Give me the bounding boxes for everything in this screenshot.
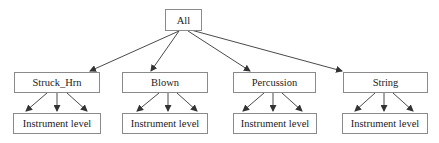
- node-percussion-label: Percussion: [252, 77, 298, 88]
- node-percussion: Percussion: [234, 73, 316, 93]
- node-instrument-level-4: Instrument level: [343, 114, 428, 134]
- leaf-label: Instrument level: [131, 118, 200, 129]
- node-string: String: [344, 73, 428, 93]
- root-edges: [90, 30, 342, 71]
- leaf-label: Instrument level: [241, 118, 310, 129]
- node-instrument-level-3: Instrument level: [234, 114, 317, 134]
- leaf-label: Instrument level: [23, 118, 92, 129]
- node-blown-label: Blown: [151, 77, 180, 88]
- leaf-edges: [26, 93, 413, 111]
- edge-all-percussion: [188, 31, 250, 71]
- node-instrument-level-1: Instrument level: [14, 114, 101, 134]
- node-instrument-level-2: Instrument level: [123, 114, 208, 134]
- node-struck-hrn: Struck_Hrn: [15, 73, 100, 93]
- node-all: All: [166, 10, 202, 31]
- node-blown: Blown: [123, 73, 208, 93]
- edge-all-string: [191, 30, 342, 71]
- node-string-label: String: [373, 77, 399, 88]
- leaf-label: Instrument level: [351, 118, 420, 129]
- node-struck-hrn-label: Struck_Hrn: [33, 77, 83, 88]
- node-all-label: All: [177, 15, 191, 26]
- hierarchy-diagram: All Struck_Hrn Blown Percussion String I…: [0, 0, 439, 143]
- edge-all-struck: [90, 31, 179, 71]
